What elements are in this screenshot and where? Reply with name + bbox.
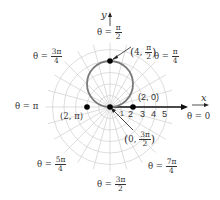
- radial-tick-2: 2: [128, 109, 133, 119]
- leader-p1-arrow-icon: [112, 55, 118, 60]
- angle-label-pi-over-2: θ = π2: [97, 24, 122, 40]
- radial-tick-3: 3: [140, 109, 145, 119]
- angle-label-3pi-over-4: θ = 3π4: [33, 48, 62, 64]
- radial-tick-5: 5: [162, 109, 167, 119]
- y-label-arrow-icon: [108, 12, 112, 17]
- radial-tick-4: 4: [151, 109, 156, 119]
- polar-graph: y x 1 2 3 4 5 θ = π2 θ = π4 θ = 3π4 θ = …: [0, 0, 220, 200]
- angle-label-pi: θ = π: [15, 102, 38, 111]
- point-4-pi-over-2: [107, 58, 113, 64]
- point-label-2-0: (2, 0): [138, 93, 159, 102]
- angle-label-3pi-over-2: θ = 3π2: [97, 176, 126, 192]
- radial-tick-1: 1: [120, 110, 124, 117]
- point-2-pi: [84, 104, 90, 110]
- point-label-4-pi-over-2: (4, π2): [130, 44, 156, 60]
- angle-label-pi-over-4: θ = π4: [154, 48, 179, 64]
- angle-label-zero: θ = 0: [187, 112, 210, 121]
- y-axis-label: y: [101, 10, 107, 20]
- angle-label-5pi-over-4: θ = 5π4: [37, 156, 66, 172]
- point-label-2-pi: (2, π): [60, 112, 83, 121]
- x-axis-label: x: [201, 93, 207, 103]
- point-origin: [107, 104, 113, 110]
- angle-label-7pi-over-4: θ = 7π4: [148, 158, 177, 174]
- x-axis-arrow-icon: [181, 104, 188, 110]
- x-label-arrow-icon: [204, 103, 209, 107]
- point-label-0-3pi-over-2: (0, 3π2): [124, 131, 155, 147]
